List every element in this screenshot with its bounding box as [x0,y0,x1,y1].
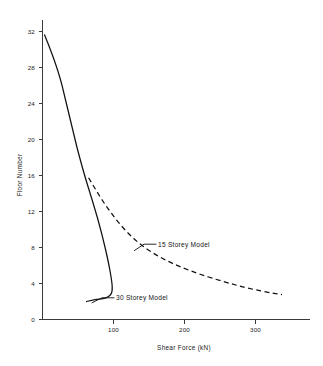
series-label-30-storey: 30 Storey Model [116,294,168,302]
y-tick-label-0: 0 [31,316,35,323]
y-axis-tick-labels: 0 4 8 12 16 20 24 28 32 [28,28,36,323]
x-axis-title: Shear Force (kN) [157,344,211,352]
leader-line-15-storey [135,244,157,250]
y-tick-label-28: 28 [28,64,36,71]
y-tick-label-4: 4 [31,280,35,287]
curve-30-storey-model [45,35,113,302]
y-tick-label-20: 20 [28,136,36,143]
y-tick-label-12: 12 [28,208,36,215]
y-tick-label-32: 32 [28,28,36,35]
y-tick-label-16: 16 [28,172,36,179]
x-tick-label-100: 100 [108,326,119,333]
x-tick-label-300: 300 [250,326,261,333]
y-axis-ticks [39,32,43,320]
y-tick-label-8: 8 [31,244,35,251]
y-axis-title: Floor Number [16,153,23,196]
y-tick-label-24: 24 [28,100,36,107]
curve-15-storey-model [89,178,282,295]
chart-figure: 0 4 8 12 16 20 24 28 32 100 200 300 Shea… [0,0,323,366]
x-axis-ticks [114,320,256,325]
shear-force-vs-floor-number-chart: 0 4 8 12 16 20 24 28 32 100 200 300 Shea… [0,0,323,366]
x-axis-tick-labels: 100 200 300 [108,326,261,333]
x-tick-label-200: 200 [179,326,190,333]
series-label-15-storey: 15 Storey Model [158,241,210,249]
